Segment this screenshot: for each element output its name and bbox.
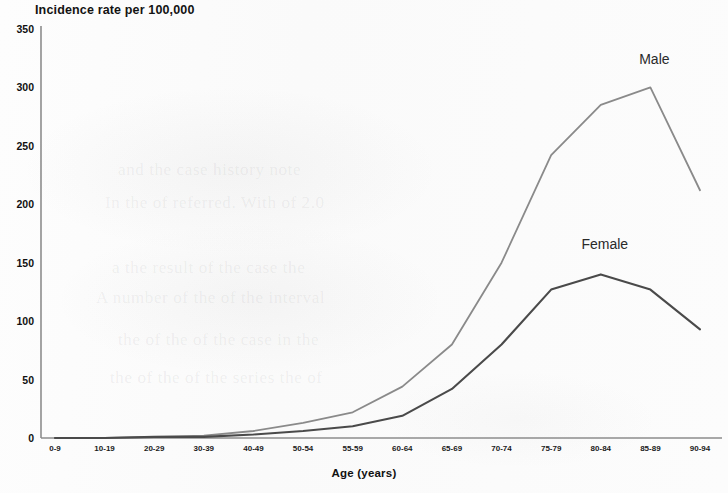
x-tick-90-94: 90-94 — [690, 444, 710, 453]
x-tick-10-19: 10-19 — [94, 444, 114, 453]
x-tick-75-79: 75-79 — [541, 444, 561, 453]
x-tick-80-84: 80-84 — [591, 444, 611, 453]
x-tick-85-89: 85-89 — [640, 444, 660, 453]
x-axis-title: Age (years) — [0, 467, 728, 479]
series-label-male: Male — [639, 51, 669, 67]
x-tick-30-39: 30-39 — [194, 444, 214, 453]
x-tick-40-49: 40-49 — [243, 444, 263, 453]
x-tick-60-64: 60-64 — [392, 444, 412, 453]
series-line-male — [55, 87, 700, 438]
x-tick-20-29: 20-29 — [144, 444, 164, 453]
x-tick-55-59: 55-59 — [342, 444, 362, 453]
incidence-rate-line-chart: Incidence rate per 100,000 350 300 250 2… — [0, 0, 728, 493]
x-tick-0-9: 0-9 — [49, 444, 61, 453]
series-line-female — [55, 274, 700, 438]
x-tick-50-54: 50-54 — [293, 444, 313, 453]
x-tick-70-74: 70-74 — [491, 444, 511, 453]
x-tick-65-69: 65-69 — [442, 444, 462, 453]
series-label-female: Female — [581, 236, 628, 252]
